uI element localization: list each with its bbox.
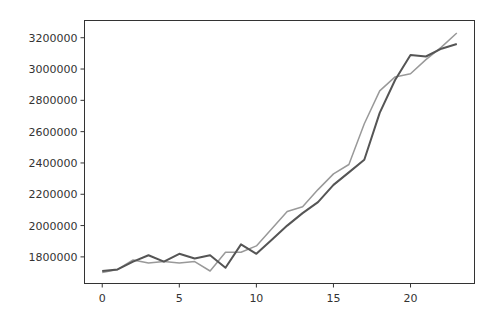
y-tick-label: 2600000 xyxy=(29,126,78,139)
y-tick-label: 2800000 xyxy=(29,94,78,107)
y-tick-label: 3000000 xyxy=(29,63,78,76)
y-tick-label: 1800000 xyxy=(29,251,78,264)
y-tick-label: 2400000 xyxy=(29,157,78,170)
y-tick-label: 2200000 xyxy=(29,188,78,201)
x-tick-label: 10 xyxy=(249,292,263,305)
y-tick-label: 3200000 xyxy=(29,32,78,45)
x-tick-label: 0 xyxy=(99,292,106,305)
x-tick-label: 5 xyxy=(176,292,183,305)
line-chart: 05101520 1800000200000022000002400000260… xyxy=(0,0,494,320)
x-tick-label: 15 xyxy=(326,292,340,305)
x-tick-label: 20 xyxy=(404,292,418,305)
y-tick-label: 2000000 xyxy=(29,220,78,233)
